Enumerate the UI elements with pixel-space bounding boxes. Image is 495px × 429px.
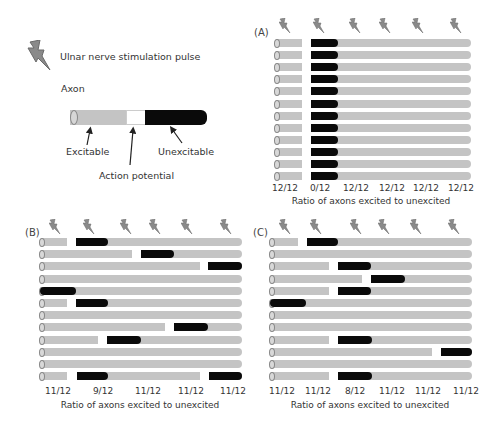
ratio-label: 11/12 xyxy=(220,386,246,396)
unexcitable-segment xyxy=(311,160,338,168)
axon-row xyxy=(275,124,471,132)
unexcitable-segment xyxy=(338,336,372,344)
axon-end-cap xyxy=(269,360,275,369)
action-potential-segment xyxy=(302,63,311,71)
lightning-bolt-icon xyxy=(120,219,132,235)
unexcitable-segment xyxy=(270,299,306,307)
axon-row xyxy=(275,39,471,47)
lightning-bolt-icon xyxy=(378,219,390,235)
unexcitable-segment xyxy=(311,51,338,59)
axon-end-cap xyxy=(39,360,45,369)
action-potential-segment xyxy=(302,112,311,120)
axon-end-cap xyxy=(274,63,280,72)
unexcitable-segment xyxy=(338,262,371,270)
unexcitable-segment xyxy=(311,39,338,47)
action-potential-segment xyxy=(200,372,209,380)
lightning-bolt-icon xyxy=(412,18,424,34)
unexcitable-segment xyxy=(371,275,405,283)
axon-row xyxy=(40,250,242,258)
lightning-bolt-icon xyxy=(379,18,391,34)
lightning-bolt-icon xyxy=(49,219,61,235)
axon-row xyxy=(270,299,472,307)
unexcitable-segment xyxy=(311,63,338,71)
axon-row xyxy=(40,323,242,331)
unexcitable-segment xyxy=(311,124,338,132)
unexcitable-segment xyxy=(311,112,338,120)
unexcitable-segment xyxy=(40,287,76,295)
action-potential-segment xyxy=(67,299,76,307)
axon-end-cap xyxy=(274,172,280,181)
axon-row xyxy=(40,348,242,356)
axon-end-cap xyxy=(269,311,275,320)
ratio-label: 11/12 xyxy=(269,386,295,396)
unexcitable-segment xyxy=(76,299,108,307)
ratio-label: 9/12 xyxy=(93,386,113,396)
axon-end-cap xyxy=(39,299,45,308)
lightning-bolt-icon xyxy=(220,219,232,235)
axon-end-cap xyxy=(274,124,280,133)
axon-row xyxy=(40,372,242,380)
action-potential-segment xyxy=(362,275,371,283)
ratio-label: 8/12 xyxy=(345,386,365,396)
lightning-bolt-icon xyxy=(149,219,161,235)
ratio-label: 0/12 xyxy=(310,183,330,193)
action-potential-segment xyxy=(302,160,311,168)
axon-end-cap xyxy=(39,323,45,332)
axon-end-cap xyxy=(269,348,275,357)
axon-row xyxy=(40,262,242,270)
action-potential-segment xyxy=(302,100,311,108)
axon-row xyxy=(270,250,472,258)
axon-row xyxy=(40,360,242,368)
action-potential-segment xyxy=(302,75,311,83)
ratio-label: 12/12 xyxy=(343,183,369,193)
unexcitable-segment xyxy=(76,238,108,246)
axon-end-cap xyxy=(269,372,275,381)
axon-row xyxy=(275,172,471,180)
axon-end-cap xyxy=(274,87,280,96)
unexcitable-segment xyxy=(311,75,338,83)
action-potential-segment xyxy=(67,238,76,246)
action-potential-segment xyxy=(165,323,174,331)
axon-end-cap xyxy=(269,250,275,259)
ratio-label: 11/12 xyxy=(379,386,405,396)
axon-row xyxy=(40,275,242,283)
axon-row xyxy=(270,238,472,246)
ratio-label: 11/12 xyxy=(305,386,331,396)
axon-end-cap xyxy=(269,287,275,296)
axon-row xyxy=(270,336,472,344)
axon-end-cap xyxy=(39,262,45,271)
excitable-label: Excitable xyxy=(66,146,109,157)
axon-end-cap xyxy=(274,112,280,121)
axon-end-cap xyxy=(269,275,275,284)
axon-row xyxy=(275,63,471,71)
axon-end-cap xyxy=(39,238,45,247)
unexcitable-segment xyxy=(311,87,338,95)
action-potential-segment xyxy=(302,136,311,144)
axon-end-cap xyxy=(269,323,275,332)
axon-end-cap xyxy=(274,100,280,109)
axon-end-cap xyxy=(274,136,280,145)
action-potential-segment xyxy=(302,87,311,95)
unexcitable-segment xyxy=(338,287,371,295)
lightning-bolt-icon xyxy=(83,219,95,235)
lightning-bolt-icon xyxy=(450,18,462,34)
lightning-bolt-icon xyxy=(310,219,322,235)
action-potential-label: Action potential xyxy=(99,170,174,181)
lightning-bolt-icon xyxy=(410,219,422,235)
lightning-bolt-icon xyxy=(279,18,291,34)
unexcitable-segment xyxy=(311,172,338,180)
ratio-label: 11/12 xyxy=(45,386,71,396)
axon-end-cap xyxy=(269,262,275,271)
axon-row xyxy=(270,348,472,356)
axon-row xyxy=(275,112,471,120)
axon-row xyxy=(40,299,242,307)
panel-label: (B) xyxy=(25,227,40,238)
unexcitable-segment xyxy=(209,372,242,380)
axon-end-cap xyxy=(39,250,45,259)
ratio-label: 12/12 xyxy=(272,183,298,193)
lightning-bolt-icon xyxy=(349,18,361,34)
axon-row xyxy=(270,372,472,380)
axon-end-cap xyxy=(274,148,280,157)
action-potential-segment xyxy=(67,372,77,380)
action-potential-segment xyxy=(329,287,338,295)
